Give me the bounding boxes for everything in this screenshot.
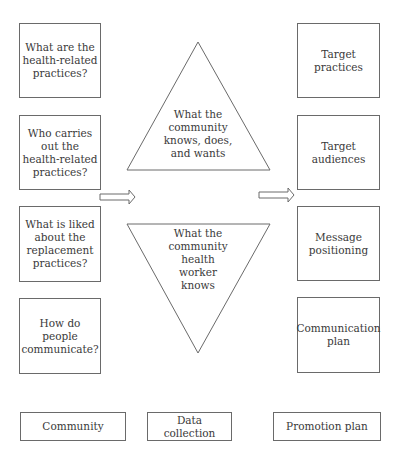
right-box-label: Target practices [300, 48, 377, 74]
footer-promotion-plan: Promotion plan [273, 412, 381, 441]
left-box-health-practices: What are the health-related practices? [19, 23, 101, 98]
right-box-message-positioning: Message positioning [297, 206, 380, 281]
right-box-label: Message positioning [300, 231, 377, 257]
right-box-communication-plan: Communication plan [297, 297, 380, 373]
left-box-label: Who carries out the health-related pract… [22, 127, 98, 179]
footer-label: Data collection [150, 414, 229, 440]
left-box-what-is-liked: What is liked about the replacement prac… [19, 206, 101, 282]
footer-community: Community [20, 412, 126, 441]
right-box-target-practices: Target practices [297, 23, 380, 98]
upper-triangle-label: What the community knows, does, and want… [158, 108, 238, 160]
left-box-label: What are the health-related practices? [22, 41, 98, 80]
left-box-label: What is liked about the replacement prac… [22, 218, 98, 270]
left-box-label: How do people communicate? [21, 317, 98, 356]
arrow-right-icon [100, 190, 135, 204]
left-box-who-carries-out: Who carries out the health-related pract… [19, 115, 101, 190]
footer-label: Community [42, 420, 103, 433]
left-box-how-communicate: How do people communicate? [19, 298, 101, 374]
right-box-label: Target audiences [300, 140, 377, 166]
arrow-right-icon [259, 188, 294, 202]
lower-triangle-label: What the community health worker knows [168, 227, 228, 292]
right-box-target-audiences: Target audiences [297, 115, 380, 190]
right-box-label: Communication plan [297, 322, 381, 348]
footer-data-collection: Data collection [147, 412, 232, 441]
footer-label: Promotion plan [286, 420, 368, 433]
